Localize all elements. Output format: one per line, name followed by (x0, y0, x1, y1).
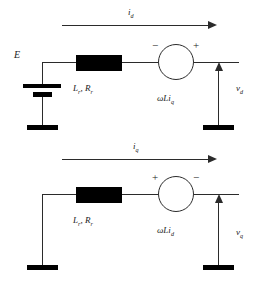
impedance-block-d (76, 55, 122, 71)
current-arrow-id-head (208, 21, 217, 29)
voltage-label-vd: vd (236, 84, 243, 95)
source-q-minus-sign: − (193, 172, 199, 183)
ground-symbol-d-right (203, 125, 234, 130)
dependent-source-d (158, 44, 194, 80)
current-arrow-iq-shaft (62, 159, 210, 160)
battery-positive-plate (23, 84, 61, 88)
current-label-id: id (128, 8, 134, 19)
source-q-plus-sign: + (152, 172, 158, 183)
wire-d-mid-segment (120, 62, 158, 63)
ground-symbol-d-left (27, 125, 58, 130)
voltage-label-vq: vq (236, 228, 243, 239)
emf-label-E: E (14, 50, 20, 60)
current-arrow-iq-head (208, 155, 217, 163)
wire-q-left-segment (42, 194, 76, 195)
source-d-minus-sign: − (152, 40, 158, 51)
voltage-arrow-vd-head (215, 62, 223, 71)
impedance-label-d: Lr, Rr (73, 84, 93, 95)
source-label-q: ωLid (157, 226, 174, 237)
source-d-plus-sign: + (193, 40, 199, 51)
wire-q-mid-segment (120, 194, 158, 195)
ground-symbol-q-left (27, 265, 58, 270)
ground-symbol-q-right (203, 265, 234, 270)
impedance-block-q (76, 187, 122, 203)
current-arrow-id-shaft (62, 25, 210, 26)
source-label-d: ωLiq (157, 94, 174, 105)
wire-d-source-branch-lower (42, 97, 43, 125)
dependent-source-q (158, 176, 194, 212)
voltage-arrow-vd-shaft (218, 70, 219, 125)
wire-q-left-branch (42, 194, 43, 265)
impedance-label-q: Lr, Rr (73, 216, 93, 227)
voltage-arrow-vq-head (215, 194, 223, 203)
circuit-diagram-figure: id Lr, Rr − + ωLiq E vd iq Lr, Rr + − ωL… (0, 0, 265, 288)
wire-d-left-segment (42, 62, 76, 63)
wire-d-source-branch-upper (42, 62, 43, 84)
current-label-iq: iq (133, 142, 139, 153)
voltage-arrow-vq-shaft (218, 202, 219, 265)
